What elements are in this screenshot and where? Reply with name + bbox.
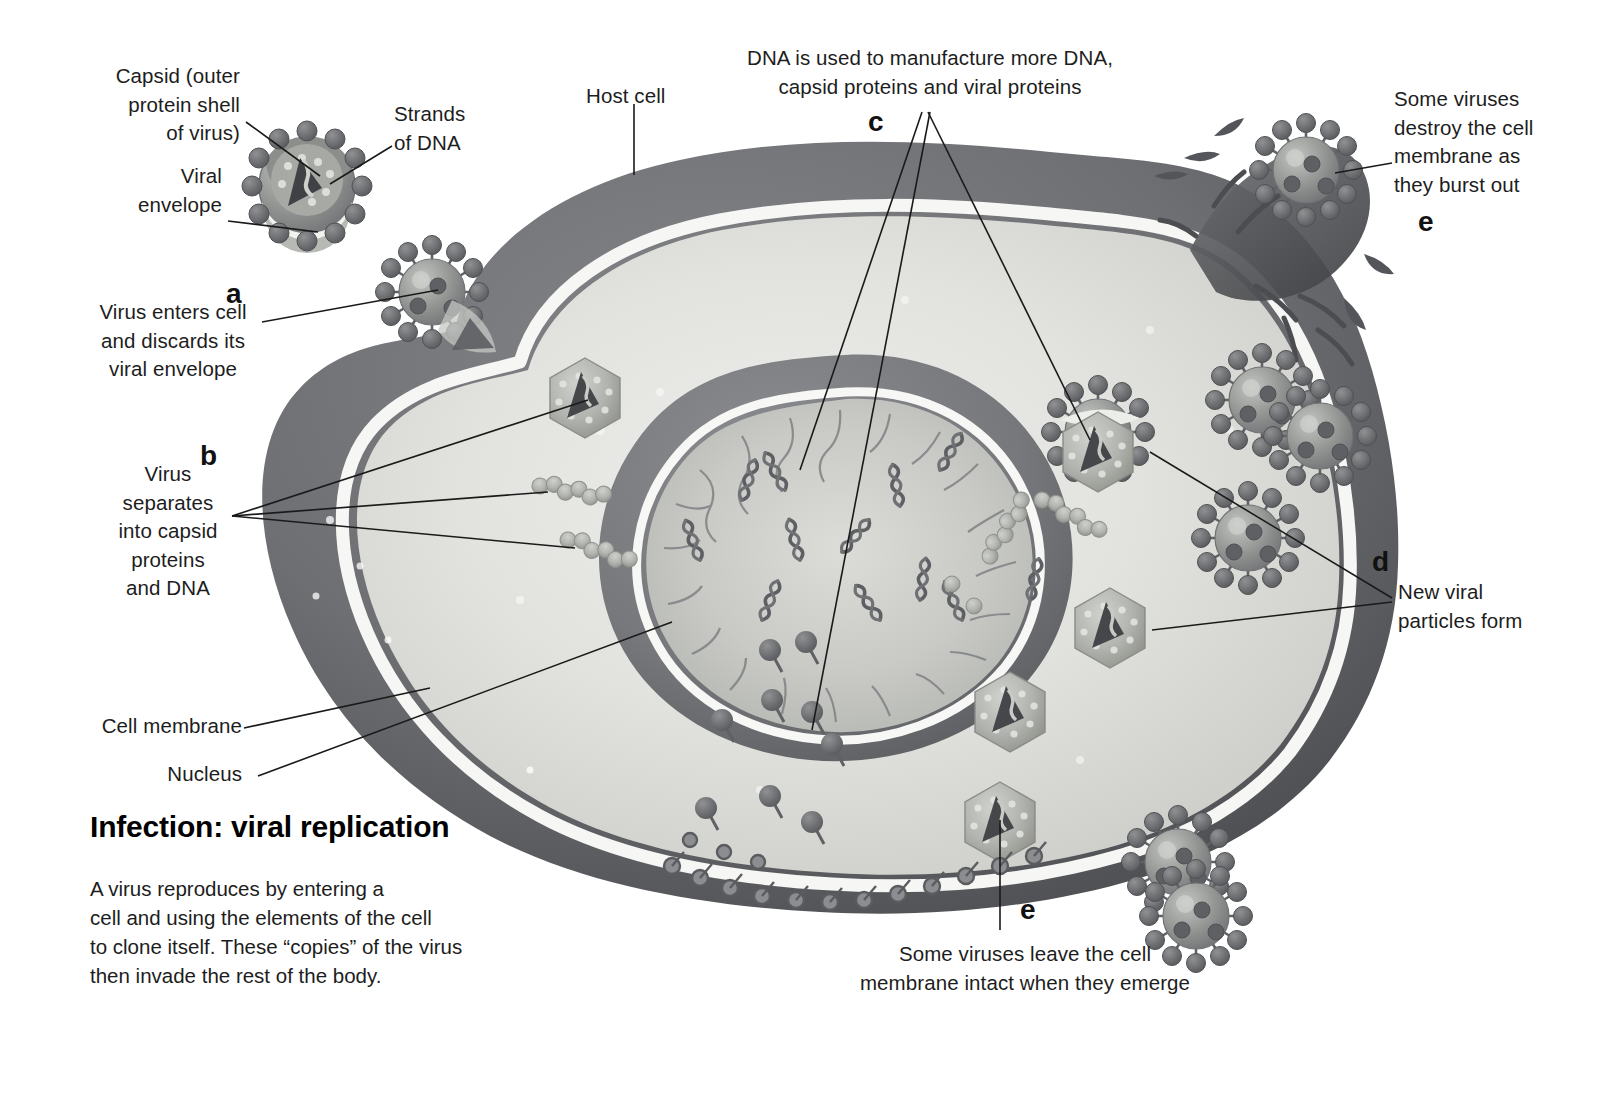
label-nucleus: Nucleus — [90, 760, 242, 789]
figure-description: A virus reproduces by entering a cell an… — [90, 874, 490, 990]
key-letter-c: c — [868, 106, 884, 138]
label-virus-separates: Virus separates into capsid proteins and… — [104, 460, 232, 603]
virus-entering — [376, 236, 497, 353]
key-letter-a: a — [226, 278, 242, 310]
key-letter-e-bottom: e — [1020, 894, 1036, 926]
key-letter-b: b — [200, 440, 217, 472]
key-letter-d: d — [1372, 546, 1389, 578]
label-leave-intact: Some viruses leave the cell membrane int… — [850, 940, 1200, 997]
label-strands-of-dna: Strands of DNA — [394, 100, 544, 157]
label-viral-envelope: Viral envelope — [70, 162, 222, 219]
figure-canvas: Capsid (outer protein shell of virus) St… — [0, 0, 1603, 1104]
label-dna-manufacture: DNA is used to manufacture more DNA, cap… — [745, 44, 1115, 101]
host-cell — [262, 114, 1398, 973]
label-capsid: Capsid (outer protein shell of virus) — [60, 62, 240, 148]
nucleoplasm — [646, 399, 1032, 732]
label-new-particles: New viral particles form — [1398, 578, 1558, 635]
figure-title: Infection: viral replication — [90, 808, 390, 845]
virus-cutaway-inset — [242, 121, 372, 253]
label-host-cell: Host cell — [586, 82, 726, 111]
label-virus-enters: Virus enters cell and discards its viral… — [84, 298, 262, 384]
label-destroy-membrane: Some viruses destroy the cell membrane a… — [1394, 85, 1603, 199]
label-cell-membrane: Cell membrane — [70, 712, 242, 741]
key-letter-e-top: e — [1418, 206, 1434, 238]
